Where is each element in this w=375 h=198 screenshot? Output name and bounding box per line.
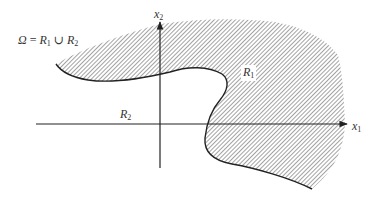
union-symbol: ∪ — [51, 33, 67, 47]
r1-subscript: 1 — [250, 71, 254, 80]
x1-axis-label: x1 — [352, 120, 361, 134]
x1-subscript: 1 — [357, 125, 361, 134]
domain-diagram — [0, 0, 375, 198]
x2-axis-label: x2 — [154, 8, 163, 22]
equals-sign: = — [27, 33, 40, 47]
region-r2-label: R2 — [120, 108, 131, 122]
x2-subscript: 2 — [159, 13, 163, 22]
omega-symbol: Ω — [18, 33, 27, 47]
omega-equation: Ω = R1 ∪ R2 — [18, 34, 78, 48]
eq-r1-name: R — [39, 33, 46, 47]
region-r1-hatched — [56, 19, 345, 189]
eq-r2-sub: 2 — [74, 39, 78, 48]
r2-subscript: 2 — [127, 113, 131, 122]
region-r1-label: R1 — [241, 65, 256, 81]
